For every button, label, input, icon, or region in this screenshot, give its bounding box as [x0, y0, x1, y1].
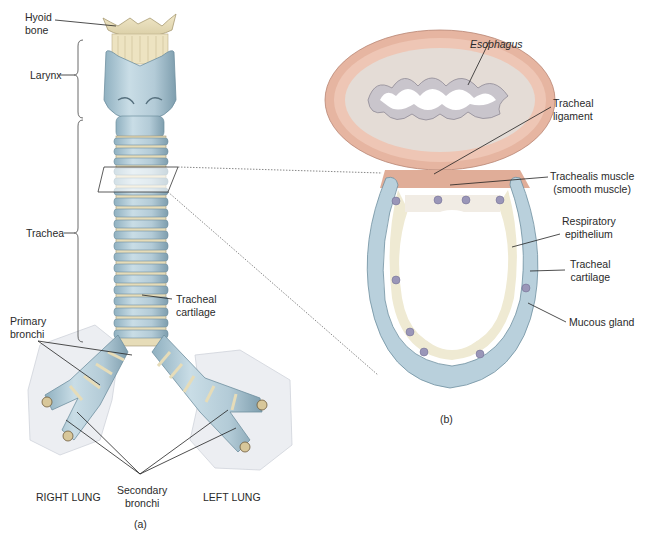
- cross-section-plane: [98, 167, 178, 192]
- label-respiratory-epithelium: Respiratory epithelium: [562, 215, 616, 240]
- label-secondary-bronchi: Secondary bronchi: [117, 484, 167, 509]
- label-tracheal-cartilage-a: Tracheal cartilage: [176, 293, 216, 318]
- label-tracheal-ligament: Tracheal ligament: [553, 97, 593, 122]
- esophagus: [325, 30, 555, 170]
- respiratory-anatomy-illustration: [0, 0, 645, 536]
- label-primary-bronchi: Primary bronchi: [10, 315, 46, 340]
- brackets: [74, 40, 83, 342]
- label-hyoid-bone: Hyoid bone: [25, 11, 52, 36]
- label-esophagus: Esophagus: [470, 38, 523, 51]
- label-right-lung: RIGHT LUNG: [36, 491, 101, 504]
- label-larynx: Larynx: [30, 69, 62, 82]
- caption-b: (b): [440, 413, 453, 426]
- label-trachealis-muscle: Trachealis muscle (smooth muscle): [550, 170, 634, 195]
- caption-a: (a): [134, 518, 147, 531]
- projection-lines: [168, 167, 382, 375]
- label-trachea: Trachea: [26, 227, 64, 240]
- label-tracheal-cartilage-b: Tracheal cartilage: [570, 258, 610, 283]
- label-left-lung: LEFT LUNG: [203, 491, 261, 504]
- label-mucous-gland: Mucous gland: [569, 316, 634, 329]
